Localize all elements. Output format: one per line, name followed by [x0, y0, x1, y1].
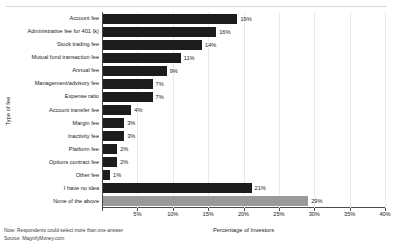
bar-row: Inactivity fee3% [102, 129, 385, 143]
bar [103, 131, 124, 141]
category-label: Platform fee [0, 145, 99, 154]
bar-value-label: 7% [156, 93, 164, 101]
bar-row: I have no idea21% [102, 181, 385, 195]
bar-value-label: 4% [134, 106, 142, 114]
x-axis-title: Percentage of Investors [102, 227, 385, 233]
bar-row: None of the above29% [102, 194, 385, 208]
category-label: Mutual fund transaction fee [0, 53, 99, 62]
bar-row: Platform fee2% [102, 142, 385, 156]
bar [103, 144, 117, 154]
bar [103, 66, 167, 76]
bar [103, 27, 216, 37]
bar-row: Management/advisory fee7% [102, 77, 385, 91]
bar-row: Options contract fee2% [102, 155, 385, 169]
category-label: I have no idea [0, 184, 99, 193]
bar-value-label: 21% [255, 184, 266, 192]
bar [103, 105, 131, 115]
category-label: Account fee [0, 14, 99, 23]
category-label: Expense ratio [0, 92, 99, 101]
bar-value-label: 7% [156, 80, 164, 88]
bar [103, 14, 237, 24]
bar [103, 157, 117, 167]
x-tick-label: 35% [344, 211, 355, 217]
x-tick-label: 30% [309, 211, 320, 217]
category-label: Annual fee [0, 66, 99, 75]
bar-value-label: 16% [219, 28, 230, 36]
category-label: Options contract fee [0, 158, 99, 167]
bar [103, 170, 110, 180]
category-label: Margin fee [0, 119, 99, 128]
bar-value-label: 9% [170, 67, 178, 75]
category-label: None of the above [0, 197, 99, 206]
bar [103, 196, 308, 206]
bar-row: Account fee19% [102, 12, 385, 26]
bar-value-label: 29% [311, 197, 322, 205]
x-tick-label: 20% [238, 211, 249, 217]
bar-row: Annual fee9% [102, 64, 385, 78]
bar-value-label: 14% [205, 41, 216, 49]
bar [103, 92, 153, 102]
category-label: Inactivity fee [0, 132, 99, 141]
top-divider [6, 6, 387, 7]
footnote-source: Source: MagnifyMoney.com [4, 236, 64, 241]
category-label: Stock trading fee [0, 40, 99, 49]
bar [103, 118, 124, 128]
bar-value-label: 3% [127, 119, 135, 127]
category-label: Other fee [0, 171, 99, 180]
bar-row: Other fee1% [102, 168, 385, 182]
bar [103, 183, 252, 193]
chart-figure: Type of fee 5%10%15%20%25%30%35%40%Accou… [0, 0, 393, 246]
bar-row: Margin fee3% [102, 116, 385, 130]
bar [103, 53, 181, 63]
x-tick-label: 10% [167, 211, 178, 217]
x-tick-label: 25% [273, 211, 284, 217]
bar-value-label: 3% [127, 132, 135, 140]
x-tick-label: 40% [379, 211, 390, 217]
category-label: Administrative fee for 401 (k) [0, 27, 99, 36]
bar-row: Administrative fee for 401 (k)16% [102, 25, 385, 39]
bar-value-label: 19% [240, 15, 251, 23]
bar-value-label: 1% [113, 171, 121, 179]
bar-row: Stock trading fee14% [102, 38, 385, 52]
plot-area: 5%10%15%20%25%30%35%40%Account fee19%Adm… [102, 12, 385, 208]
bar [103, 79, 153, 89]
x-tick-label: 15% [203, 211, 214, 217]
category-label: Management/advisory fee [0, 79, 99, 88]
bar-value-label: 2% [120, 145, 128, 153]
bar-row: Expense ratio7% [102, 90, 385, 104]
gridline [385, 12, 386, 208]
category-label: Account transfer fee [0, 106, 99, 115]
bar-row: Mutual fund transaction fee11% [102, 51, 385, 65]
bar-value-label: 11% [184, 54, 195, 62]
footnote-note: Note: Respondents could select more than… [4, 228, 123, 233]
bar-value-label: 2% [120, 158, 128, 166]
x-tick-label: 5% [133, 211, 141, 217]
bar-row: Account transfer fee4% [102, 103, 385, 117]
bar [103, 40, 202, 50]
